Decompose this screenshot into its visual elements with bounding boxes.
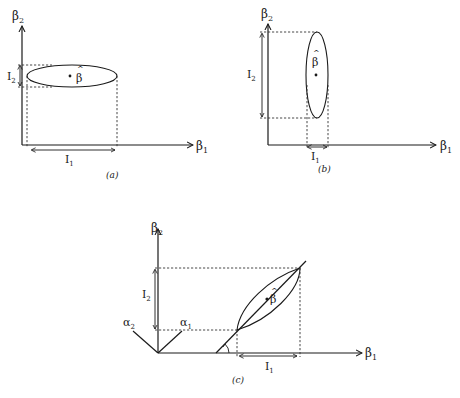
interval-i2-label: I2 [7, 70, 16, 85]
estimate-point [315, 74, 318, 77]
angle-arc [225, 344, 229, 353]
interval-i1-label: I1 [265, 360, 274, 375]
estimate-label: β [312, 56, 318, 69]
estimate-point [69, 75, 72, 78]
y-axis-label: β2 [12, 9, 24, 25]
panel-a: β2 β1 β ^ I2 I1 (a) [7, 9, 208, 180]
caption-c: (c) [232, 375, 245, 385]
panel-c: β2 β1 α2 α1 β ^ I2 I1 (c) [123, 221, 377, 385]
principal-axis-line [216, 261, 306, 353]
alpha2-label: α2 [123, 316, 135, 331]
panel-b: β2 β1 β ^ I2 I1 (b) [247, 7, 452, 174]
rotated-axis-alpha2 [133, 331, 158, 353]
interval-i1-label: I1 [65, 153, 74, 168]
hat-symbol: ^ [77, 64, 84, 73]
x-axis-label: β1 [440, 139, 452, 155]
y-axis-label: β2 [261, 7, 273, 23]
caption-a: (a) [106, 170, 119, 180]
caption-b: (b) [318, 164, 331, 174]
x-axis-label: β1 [365, 346, 377, 362]
interval-i2-label: I2 [247, 68, 256, 83]
interval-i1-label: I1 [311, 150, 320, 165]
estimate-label: β [76, 72, 82, 85]
hat-symbol: ^ [313, 48, 320, 57]
confidence-ellipse [27, 65, 117, 87]
alpha1-label: α1 [180, 316, 192, 331]
estimate-point [265, 297, 268, 300]
interval-i2-label: I2 [142, 288, 151, 303]
hat-symbol: ^ [271, 286, 278, 295]
figure-canvas: β2 β1 β ^ I2 I1 (a) β2 β1 β ^ I2 I1 (b [0, 0, 460, 398]
y-axis-label: β2 [151, 221, 163, 237]
rotated-axis-alpha1 [158, 331, 182, 353]
x-axis-label: β1 [196, 139, 208, 155]
